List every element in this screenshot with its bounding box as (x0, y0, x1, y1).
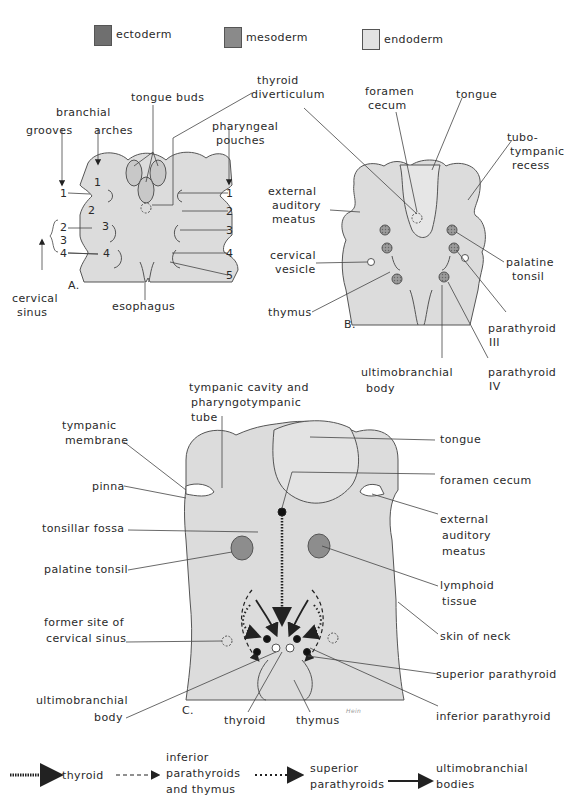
label-tongue-c: tongue (440, 433, 481, 446)
label-ext-auditory-c-2: auditory (442, 529, 491, 542)
label-pharyngeal-1: pharyngeal (212, 120, 278, 133)
label-inferior-parathyroid: inferior parathyroid (436, 710, 551, 723)
pouch-number-5: 5 (226, 269, 233, 282)
groove-number-2: 2 (60, 221, 67, 234)
label-ext-auditory-c-1: external (440, 513, 488, 526)
label-tongue-b: tongue (456, 88, 497, 101)
label-ext-auditory-b-2: auditory (272, 199, 321, 212)
panel-b-drawing (342, 160, 485, 325)
pouch-number-4: 4 (226, 247, 233, 260)
label-tongue-buds: tongue buds (131, 91, 204, 104)
label-ultimobranchial-b-1: ultimobranchial (361, 366, 453, 379)
label-former-site-1: former site of (44, 616, 124, 629)
label-palatine-tonsil-c: palatine tonsil (44, 563, 128, 576)
label-parathyroid-iii-1: parathyroid (488, 322, 556, 335)
key-thyroid-label: thyroid (62, 769, 104, 782)
label-tympanic-cavity-1: tympanic cavity and (189, 381, 309, 394)
label-lymphoid-1: lymphoid (440, 579, 494, 592)
label-tympanic-membrane-1: tympanic (62, 419, 117, 432)
label-ultimobranchial-c-2: body (94, 711, 123, 724)
pouch-number-3: 3 (226, 224, 233, 237)
panel-c-letter: C. (182, 704, 194, 717)
label-thyroid-div-2: diverticulum (251, 88, 325, 101)
panel-c-drawing (185, 421, 405, 700)
label-tympanic-cavity-2: pharyngotympanic (191, 396, 301, 409)
key-inferior-label-3: and thymus (166, 783, 235, 796)
label-pharyngeal-2: pouches (216, 134, 265, 147)
label-arches: arches (94, 124, 133, 137)
label-superior-parathyroid: superior parathyroid (436, 668, 557, 681)
label-foramen-cecum-c: foramen cecum (440, 474, 532, 487)
label-palatine-tonsil-b-2: tonsil (512, 270, 544, 283)
label-thyroid-c: thyroid (224, 714, 266, 727)
label-ext-auditory-c-3: meatus (442, 545, 486, 558)
label-foramen-cecum-2: cecum (368, 99, 407, 112)
key-inferior-label-1: inferior (166, 751, 209, 764)
label-foramen-cecum-1: foramen (365, 85, 414, 98)
label-branchial: branchial (56, 106, 111, 119)
panel-b-letter: B. (344, 318, 356, 331)
label-grooves: grooves (26, 124, 73, 137)
key-superior-label-1: superior (310, 762, 358, 775)
label-tympanic-cavity-3: tube (191, 411, 218, 424)
label-cervical-sinus-1: cervical (12, 292, 58, 305)
label-thymus-b: thymus (268, 306, 312, 319)
groove-number-3: 3 (60, 234, 67, 247)
label-lymphoid-2: tissue (442, 595, 477, 608)
label-tympanic-membrane-2: membrane (65, 434, 128, 447)
label-former-site-2: cervical sinus (46, 632, 126, 645)
label-thymus-c: thymus (296, 714, 340, 727)
artist-signature: Hein (346, 704, 361, 717)
panel-a-letter: A. (68, 279, 80, 292)
label-ultimobranchial-b-2: body (366, 382, 395, 395)
label-skin-of-neck: skin of neck (440, 630, 511, 643)
arch-number-4: 4 (103, 247, 110, 260)
label-palatine-tonsil-b-1: palatine (506, 256, 554, 269)
key-superior-label-2: parathyroids (310, 778, 384, 791)
label-esophagus: esophagus (112, 300, 175, 313)
key-inferior-label-2: parathyroids (166, 767, 240, 780)
label-ultimobranchial-c-1: ultimobranchial (36, 694, 128, 707)
key-ultimobranchial-label-1: ultimobranchial (436, 762, 528, 775)
label-pinna: pinna (92, 480, 125, 493)
groove-number-4: 4 (60, 247, 67, 260)
arch-number-2: 2 (88, 204, 95, 217)
label-cervical-vesicle-1: cervical (270, 249, 316, 262)
label-parathyroid-iv-2: IV (489, 380, 501, 393)
pouch-number-1: 1 (226, 187, 233, 200)
label-tonsillar-fossa: tonsillar fossa (42, 522, 124, 535)
arch-number-1: 1 (94, 176, 101, 189)
label-ext-auditory-b-1: external (268, 185, 316, 198)
label-thyroid-div-1: thyroid (257, 74, 299, 87)
label-parathyroid-iv-1: parathyroid (488, 366, 556, 379)
label-tubo-3: recess (512, 159, 550, 172)
pouch-number-2: 2 (226, 205, 233, 218)
arch-number-3: 3 (102, 220, 109, 233)
label-tubo-2: tympanic (510, 145, 565, 158)
label-tubo-1: tubo- (507, 131, 538, 144)
label-ext-auditory-b-3: meatus (272, 213, 316, 226)
label-parathyroid-iii-2: III (489, 336, 500, 349)
panel-a-drawing (80, 152, 238, 282)
label-cervical-sinus-2: sinus (17, 306, 47, 319)
groove-number-1: 1 (60, 187, 67, 200)
key-ultimobranchial-label-2: bodies (436, 778, 475, 791)
label-cervical-vesicle-2: vesicle (275, 263, 316, 276)
